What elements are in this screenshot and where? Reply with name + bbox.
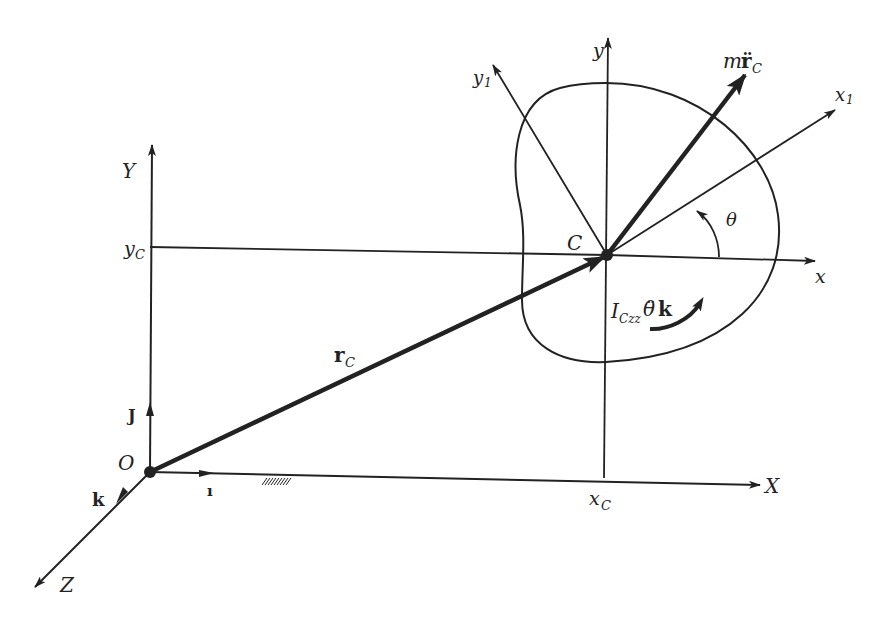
svg-text:C: C [601, 498, 611, 513]
svg-text:C: C [752, 61, 762, 76]
label-j-unit: J [126, 406, 136, 425]
svg-text:x: x [589, 487, 600, 509]
label-rc: r C [334, 343, 355, 370]
svg-text:Czz: Czz [619, 312, 642, 326]
svg-text:C: C [345, 355, 355, 370]
label-yc: y C [123, 237, 145, 262]
label-Z: Z [59, 573, 75, 597]
j-unit-vector-arrowhead [146, 402, 154, 416]
label-Y: Y [122, 159, 137, 183]
svg-text:1: 1 [484, 76, 492, 90]
body-x1-axis [607, 110, 835, 255]
inertial-x-axis [150, 472, 760, 485]
ground-hatch [262, 478, 291, 485]
inertial-y-axis [150, 145, 152, 472]
svg-text:x: x [835, 84, 845, 105]
origin-point-o [144, 466, 156, 478]
label-X: X [763, 474, 780, 498]
theta-arc [697, 211, 719, 257]
svg-text:θ̈: θ̈ [643, 297, 655, 321]
label-C: C [567, 231, 582, 255]
rigid-body-kinematics-diagram: Y X Z O ı J k y C x C r C C x y x 1 y 1 … [0, 0, 877, 627]
label-y1: y 1 [472, 67, 492, 90]
label-theta: θ [726, 209, 737, 230]
label-k-unit: k [92, 489, 105, 510]
svg-text:y: y [123, 237, 135, 259]
svg-text:k: k [658, 297, 673, 321]
position-vector-rc [150, 257, 604, 472]
mass-center-point-c [601, 249, 613, 261]
svg-text:C: C [135, 247, 145, 262]
i-unit-vector-arrowhead [199, 470, 214, 477]
label-body-y: y [592, 39, 604, 61]
label-inertia-force: m r̈ C [723, 49, 762, 76]
svg-text:m: m [723, 49, 742, 73]
label-O: O [118, 451, 134, 475]
label-body-x: x [815, 265, 826, 287]
svg-text:y: y [472, 67, 484, 88]
yc-line [150, 247, 607, 255]
svg-text:1: 1 [846, 93, 854, 107]
body-x-axis [607, 255, 815, 261]
label-x1: x 1 [835, 84, 854, 107]
svg-text:r̈: r̈ [741, 49, 752, 73]
label-i-unit: ı [207, 482, 213, 500]
body-y1-axis [493, 65, 607, 255]
label-inertia-moment: I Czz θ̈ k [610, 297, 673, 326]
svg-text:r: r [334, 343, 345, 367]
label-xc: x C [589, 487, 611, 513]
inertia-force-vector [607, 75, 745, 255]
